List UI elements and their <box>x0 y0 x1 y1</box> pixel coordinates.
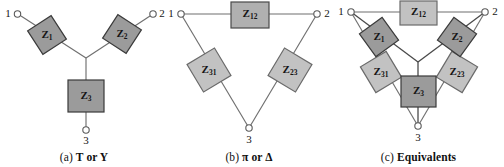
caption-c-text: Equivalents <box>397 151 456 163</box>
terminal-1-label: 1 <box>168 7 174 19</box>
diagram-t-or-y: Z1 Z2 Z3 1 2 3 <box>0 0 168 145</box>
impedance-z12: Z12 <box>231 2 269 28</box>
terminal-3-label: 3 <box>83 134 89 145</box>
terminal-2-node <box>314 11 320 17</box>
diagram-equivalents: Z12 Z31 Z23 Z1 Z2 <box>333 0 504 145</box>
terminal-3-label: 3 <box>415 131 421 143</box>
caption-a-prefix: (a) <box>60 151 73 163</box>
terminal-2-node <box>482 9 488 15</box>
panel-t-or-y: Z1 Z2 Z3 1 2 3 (a) T or Y <box>0 0 168 167</box>
caption-b-text: π or Δ <box>242 151 273 163</box>
panel-pi-or-delta: Z12 Z31 Z23 1 2 3 (b) π or Δ <box>163 0 335 167</box>
terminal-1-node <box>14 11 20 17</box>
impedance-z2: Z2 <box>103 15 142 54</box>
terminal-2-node <box>150 11 156 17</box>
terminal-3-label: 3 <box>246 133 252 145</box>
three-terminal-network-figure: Z1 Z2 Z3 1 2 3 (a) T or Y <box>0 0 504 167</box>
impedance-z12: Z12 <box>400 1 437 25</box>
caption-a-text: T or Y <box>76 151 108 163</box>
terminal-1-node <box>178 11 184 17</box>
impedance-z1: Z1 <box>28 16 67 55</box>
impedance-z31: Z31 <box>360 51 401 92</box>
caption-panel-c: (c) Equivalents <box>333 151 504 163</box>
terminal-2-label: 2 <box>324 7 330 19</box>
terminal-3-node <box>415 123 421 129</box>
terminal-3-node <box>83 127 89 133</box>
caption-panel-a: (a) T or Y <box>0 151 168 163</box>
impedance-z23: Z23 <box>436 51 477 92</box>
panel-equivalents: Z12 Z31 Z23 Z1 Z2 <box>333 0 504 167</box>
impedance-z3: Z3 <box>68 80 104 112</box>
terminal-1-label: 1 <box>338 5 344 17</box>
impedance-z31: Z31 <box>187 48 231 92</box>
terminal-1-label: 1 <box>5 7 11 19</box>
terminal-2-label: 2 <box>492 5 498 17</box>
caption-c-prefix: (c) <box>381 151 394 163</box>
impedance-z3: Z3 <box>401 76 436 107</box>
terminal-1-node <box>348 9 354 15</box>
diagram-pi-or-delta: Z12 Z31 Z23 1 2 3 <box>163 0 335 145</box>
terminal-3-node <box>246 125 252 131</box>
caption-panel-b: (b) π or Δ <box>163 151 335 163</box>
caption-b-prefix: (b) <box>225 151 239 163</box>
